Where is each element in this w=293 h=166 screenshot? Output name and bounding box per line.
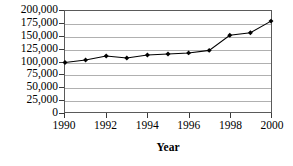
line-chart: 025,00050,00075,000100,000125,000150,000…: [0, 0, 293, 166]
y-axis-tick-label: 25,000: [0, 94, 58, 106]
y-axis-tick-label: 100,000: [0, 56, 58, 68]
x-axis-tick-label: 1996: [166, 119, 212, 132]
x-axis-tick: [189, 113, 190, 118]
plot-area: [64, 10, 272, 113]
data-point-marker: [104, 53, 109, 58]
y-axis-tick-label: 75,000: [0, 68, 58, 80]
x-axis-tick-labels: 199019921994199619982000: [64, 119, 272, 135]
y-axis-tick-label: 125,000: [0, 43, 58, 55]
data-point-marker: [63, 60, 68, 65]
data-point-marker: [124, 56, 129, 61]
x-axis-tick-label: 1998: [207, 119, 253, 132]
data-point-marker: [166, 51, 171, 56]
y-axis-tick-label: 175,000: [0, 17, 58, 29]
y-axis-tick-labels: 025,00050,00075,000100,000125,000150,000…: [0, 10, 58, 113]
x-axis-tick-label: 1992: [83, 119, 129, 132]
data-point-marker: [83, 58, 88, 63]
data-series: [65, 11, 271, 112]
y-axis-tick-label: 50,000: [0, 81, 58, 93]
x-axis-tick-label: 1994: [124, 119, 170, 132]
y-axis-tick-label: 0: [0, 107, 58, 119]
x-axis-tick: [106, 113, 107, 118]
x-axis-title: Year: [64, 141, 272, 153]
x-axis-tick: [147, 113, 148, 118]
y-axis-tick-label: 200,000: [0, 4, 58, 16]
data-point-marker: [186, 50, 191, 55]
data-point-marker: [248, 30, 253, 35]
x-axis-ticks: [64, 113, 272, 118]
data-point-marker: [145, 52, 150, 57]
x-axis-tick: [64, 113, 65, 118]
x-axis-tick: [271, 113, 272, 118]
data-point-marker: [269, 19, 274, 24]
x-axis-tick: [230, 113, 231, 118]
y-axis-tick-label: 150,000: [0, 30, 58, 42]
x-axis-tick-label: 2000: [249, 119, 293, 132]
x-axis-tick-label: 1990: [41, 119, 87, 132]
